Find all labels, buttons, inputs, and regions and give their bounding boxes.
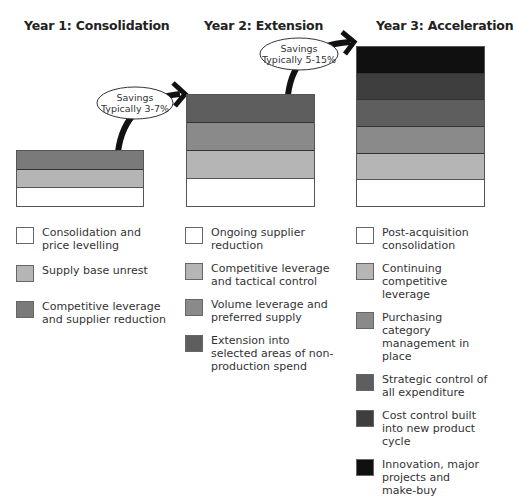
savings-label: Savings (260, 43, 338, 54)
legend-item: Supply base unrest (16, 264, 176, 282)
legend-item: Innovation, major projects and make-buy (356, 458, 496, 497)
band-strategic-control (357, 99, 484, 126)
legend-item: Competitive leverage and tactical contro… (185, 262, 345, 288)
legend-item: Cost control built into new product cycl… (356, 409, 496, 448)
legend-label: Strategic control of all expenditure (382, 373, 494, 399)
band-extension-non-production (187, 95, 314, 122)
legend-swatch (356, 374, 374, 391)
legend-item: Continuing competitive leverage (356, 262, 496, 301)
legend-item: Ongoing supplier reduction (185, 226, 345, 252)
legend-swatch (356, 227, 374, 244)
band-volume-leverage (187, 122, 314, 150)
band-post-acquisition (357, 179, 484, 206)
savings-bubble-2: Savings Typically 5-15% (260, 43, 338, 65)
band-supply-base-unrest (17, 169, 143, 188)
legend-swatch (356, 263, 374, 280)
legend-label: Innovation, major projects and make-buy (382, 458, 482, 497)
year1-bar (16, 150, 144, 207)
savings-range: Typically 5-15% (260, 54, 338, 65)
legend-item: Consolidation and price levelling (16, 226, 176, 252)
year2-legend: Ongoing supplier reduction Competitive l… (185, 226, 345, 383)
legend-label: Ongoing supplier reduction (211, 226, 321, 252)
year2-bar (186, 94, 315, 207)
savings-label: Savings (97, 92, 173, 103)
legend-swatch (185, 227, 203, 244)
legend-label: Consolidation and price levelling (42, 226, 152, 252)
legend-swatch (185, 299, 203, 316)
legend-item: Competitive leverage and supplier reduct… (16, 300, 176, 326)
legend-item: Post-acquisition consolidation (356, 226, 496, 252)
year1-legend: Consolidation and price levelling Supply… (16, 226, 176, 336)
band-tactical-control (187, 150, 314, 178)
legend-label: Post-acquisition consolidation (382, 226, 482, 252)
legend-label: Supply base unrest (42, 264, 148, 277)
legend-item: Strategic control of all expenditure (356, 373, 496, 399)
savings-bubble-1: Savings Typically 3-7% (97, 92, 173, 114)
legend-label: Competitive leverage and supplier reduct… (42, 300, 172, 326)
band-ongoing-reduction (187, 178, 314, 206)
band-category-management (357, 126, 484, 153)
band-innovation (357, 47, 484, 73)
legend-label: Purchasing category management in place (382, 311, 494, 363)
legend-item: Volume leverage and preferred supply (185, 298, 345, 324)
year3-legend: Post-acquisition consolidation Continuin… (356, 226, 496, 500)
legend-swatch (16, 227, 34, 244)
legend-swatch (356, 312, 374, 329)
band-competitive-leverage (17, 151, 143, 169)
legend-swatch (185, 263, 203, 280)
legend-label: Continuing competitive leverage (382, 262, 494, 301)
band-cost-control (357, 73, 484, 100)
legend-item: Purchasing category management in place (356, 311, 496, 363)
legend-label: Extension into selected areas of non-pro… (211, 334, 336, 373)
savings-range: Typically 3-7% (97, 103, 173, 114)
legend-swatch (356, 410, 374, 427)
legend-swatch (356, 459, 374, 476)
legend-label: Cost control built into new product cycl… (382, 409, 494, 448)
legend-label: Competitive leverage and tactical contro… (211, 262, 345, 288)
legend-swatch (16, 265, 34, 282)
year3-bar (356, 46, 485, 207)
band-consolidation (17, 187, 143, 206)
legend-swatch (185, 335, 203, 352)
band-continuing-leverage (357, 153, 484, 180)
legend-label: Volume leverage and preferred supply (211, 298, 336, 324)
legend-swatch (16, 301, 34, 318)
legend-item: Extension into selected areas of non-pro… (185, 334, 345, 373)
